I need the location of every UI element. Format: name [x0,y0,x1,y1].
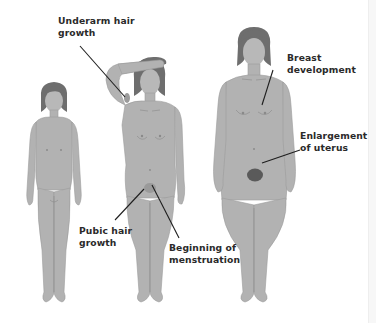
label-underarm-hair-growth: Underarm hair growth [58,15,135,39]
label-enlargement-of-uterus: Enlargement of uterus [300,130,367,154]
label-beginning-of-menstruation: Beginning of menstruation [169,242,240,266]
pubic-hair-mark [247,169,263,182]
label-breast-development: Breast development [287,52,356,76]
child-figure [27,82,82,302]
label-pubic-hair-growth: Pubic hair growth [79,225,132,249]
